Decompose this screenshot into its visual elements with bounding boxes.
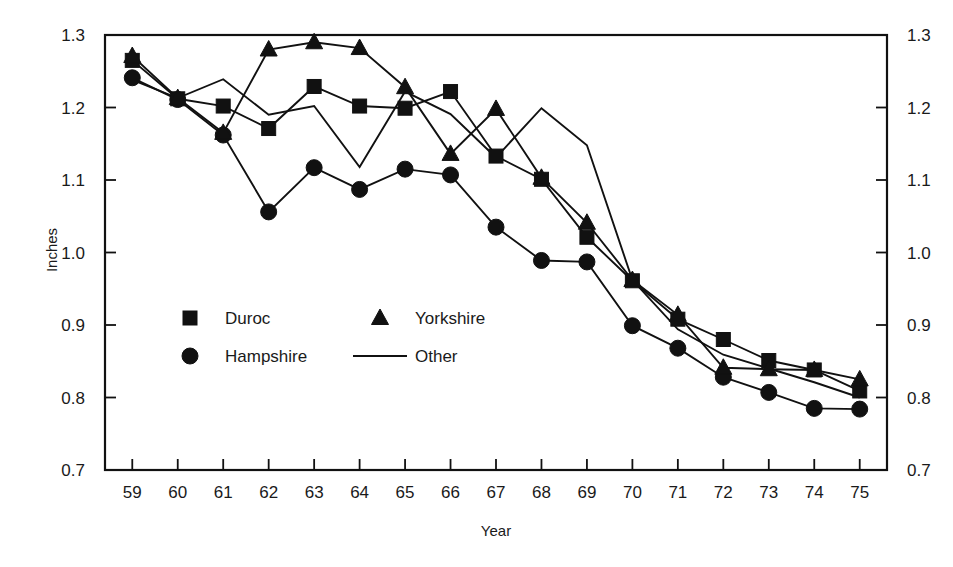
x-tick-label: 62 (259, 483, 278, 502)
data-point-square (216, 99, 230, 113)
data-point-circle (261, 204, 277, 220)
y-axis-left-labels: 0.70.80.91.01.11.21.3 (61, 26, 85, 480)
y-axis-title: Inches (43, 228, 60, 272)
x-tick-label: 67 (487, 483, 506, 502)
x-tick-label: 64 (350, 483, 369, 502)
x-tick-label: 70 (623, 483, 642, 502)
y-tick-label: 0.7 (61, 461, 85, 480)
y-axis-left-ticks (105, 108, 116, 398)
y-tick-label: 1.0 (61, 244, 85, 263)
data-point-circle (488, 219, 504, 235)
series-markers-yorkshire (124, 33, 868, 386)
data-point-circle (579, 254, 595, 270)
legend-marker-triangle (372, 309, 389, 325)
x-tick-label: 74 (805, 483, 824, 502)
legend-label: Hampshire (225, 347, 307, 366)
y-tick-label: 0.9 (61, 316, 85, 335)
data-point-square (398, 101, 412, 115)
x-tick-label: 71 (668, 483, 687, 502)
x-axis-labels: 5960616263646566676869707172737475 (123, 483, 869, 502)
data-point-square (444, 85, 458, 99)
y-axis-right-labels: 0.70.80.91.01.11.21.3 (907, 26, 931, 480)
data-point-square (353, 99, 367, 113)
y-axis-right-ticks (876, 108, 887, 398)
data-point-square (307, 79, 321, 93)
y-tick-label: 0.8 (61, 389, 85, 408)
x-tick-label: 69 (577, 483, 596, 502)
legend-marker-square (183, 311, 197, 325)
legend-label: Other (415, 347, 458, 366)
y-tick-label: 1.3 (61, 26, 85, 45)
y-tick-label: 1.3 (907, 26, 931, 45)
data-point-triangle (397, 78, 414, 94)
x-tick-label: 65 (396, 483, 415, 502)
x-tick-label: 61 (214, 483, 233, 502)
data-point-circle (397, 161, 413, 177)
data-point-square (262, 122, 276, 136)
y-tick-label: 0.8 (907, 389, 931, 408)
chart-page: 0.70.80.91.01.11.21.3 0.70.80.91.01.11.2… (0, 0, 953, 567)
data-point-square (580, 230, 594, 244)
line-chart: 0.70.80.91.01.11.21.3 0.70.80.91.01.11.2… (0, 0, 953, 567)
data-point-circle (806, 400, 822, 416)
x-axis-title: Year (481, 522, 511, 539)
data-point-circle (306, 160, 322, 176)
x-tick-label: 75 (850, 483, 869, 502)
y-tick-label: 1.1 (61, 171, 85, 190)
x-axis-ticks (132, 459, 859, 470)
data-point-circle (624, 318, 640, 334)
y-tick-label: 0.9 (907, 316, 931, 335)
x-tick-label: 72 (714, 483, 733, 502)
y-tick-label: 1.1 (907, 171, 931, 190)
data-point-circle (124, 70, 140, 86)
y-tick-label: 1.2 (61, 99, 85, 118)
x-tick-label: 63 (305, 483, 324, 502)
data-point-square (716, 333, 730, 347)
data-point-circle (670, 340, 686, 356)
legend-label: Duroc (225, 309, 271, 328)
chart-legend: DurocYorkshireHampshireOther (182, 309, 485, 366)
x-tick-label: 68 (532, 483, 551, 502)
data-point-triangle (488, 100, 505, 116)
data-point-circle (761, 384, 777, 400)
x-tick-label: 60 (168, 483, 187, 502)
x-tick-label: 66 (441, 483, 460, 502)
data-point-circle (443, 167, 459, 183)
legend-item-duroc: Duroc (183, 309, 271, 328)
x-tick-label: 73 (759, 483, 778, 502)
data-point-square (489, 149, 503, 163)
y-tick-label: 0.7 (907, 461, 931, 480)
legend-item-other: Other (353, 347, 458, 366)
data-point-circle (852, 401, 868, 417)
y-tick-label: 1.0 (907, 244, 931, 263)
legend-marker-circle (182, 348, 198, 364)
y-tick-label: 1.2 (907, 99, 931, 118)
legend-item-hampshire: Hampshire (182, 347, 307, 366)
x-tick-label: 59 (123, 483, 142, 502)
legend-item-yorkshire: Yorkshire (372, 309, 486, 328)
data-point-circle (352, 181, 368, 197)
legend-label: Yorkshire (415, 309, 485, 328)
data-point-circle (533, 252, 549, 268)
